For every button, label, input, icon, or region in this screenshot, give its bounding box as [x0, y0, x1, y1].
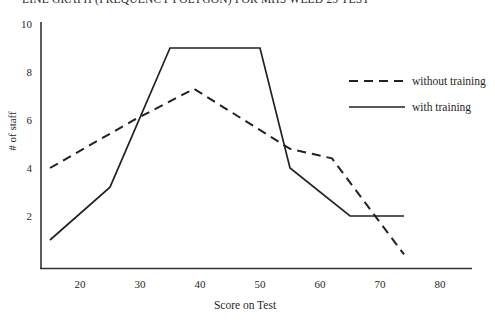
- y-tick-label-6: 6: [10, 114, 32, 126]
- legend-label-with-training: with training: [412, 101, 471, 113]
- legend-dashed-swatch-icon: [348, 76, 406, 86]
- chart-figure: LINE GRAPH (FREQUENCY POLYGON) FOR MHS W…: [0, 0, 495, 321]
- y-tick-label-10: 10: [10, 18, 32, 30]
- legend-item-with-training: with training: [348, 101, 471, 113]
- x-tick-label-50: 50: [245, 278, 275, 290]
- x-tick-label-40: 40: [185, 278, 215, 290]
- legend-solid-swatch-icon: [348, 102, 406, 112]
- plot-area: [0, 0, 495, 321]
- x-tick-label-60: 60: [305, 278, 335, 290]
- y-tick-label-8: 8: [10, 66, 32, 78]
- x-tick-label-70: 70: [365, 278, 395, 290]
- y-axis-title: # of staff: [6, 101, 18, 161]
- x-tick-label-80: 80: [425, 278, 455, 290]
- y-tick-label-2: 2: [10, 210, 32, 222]
- y-tick-label-4: 4: [10, 162, 32, 174]
- legend-label-without-training: without training: [412, 75, 486, 87]
- x-axis-title: Score on Test: [155, 299, 335, 311]
- x-tick-label-30: 30: [125, 278, 155, 290]
- series-line-without-training: [50, 89, 404, 255]
- x-tick-label-20: 20: [65, 278, 95, 290]
- legend-item-without-training: without training: [348, 75, 486, 87]
